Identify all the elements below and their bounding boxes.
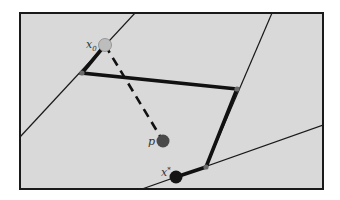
start-point-x0 xyxy=(99,39,112,52)
point-p xyxy=(157,135,170,148)
vertex-1 xyxy=(79,70,84,75)
solution-point-xstar xyxy=(170,171,183,184)
vertex-3 xyxy=(203,164,208,169)
diagram-frame xyxy=(20,13,323,189)
diagram-canvas: x0 p x* xyxy=(0,0,340,200)
vertex-2 xyxy=(234,86,239,91)
label-p: p xyxy=(148,135,155,148)
